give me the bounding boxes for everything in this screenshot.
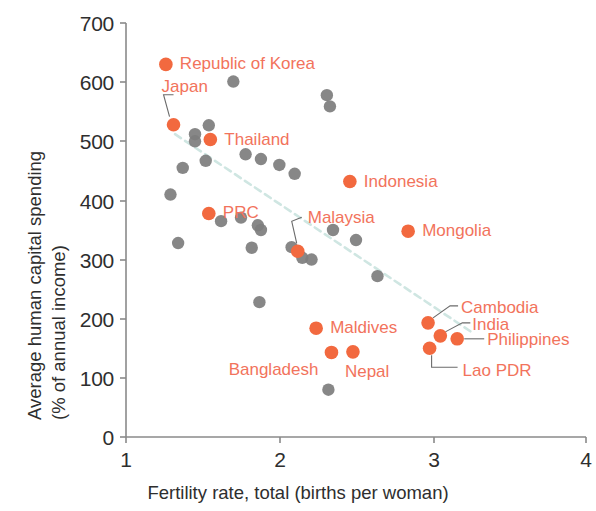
data-point-other	[305, 253, 317, 265]
data-point-other	[322, 383, 334, 395]
data-point-other	[227, 75, 239, 87]
x-tick-1: 1	[96, 449, 156, 470]
y-axis-title-line1: Average human capital spending	[24, 151, 46, 420]
point-label-malaysia: Malaysia	[308, 209, 375, 226]
point-label-thailand: Thailand	[224, 131, 289, 148]
data-point-other	[288, 168, 300, 180]
y-tick-500: 500	[52, 131, 114, 152]
point-label-lao-pdr: Lao PDR	[463, 362, 532, 379]
data-point-india	[434, 329, 448, 343]
leader-line-japan	[164, 95, 174, 117]
data-point-republic-of-korea	[159, 58, 173, 72]
x-tick-4: 4	[556, 449, 596, 470]
point-label-japan: Japan	[162, 78, 208, 95]
data-point-cambodia	[421, 316, 435, 330]
point-label-republic-of-korea: Republic of Korea	[180, 55, 315, 72]
point-label-indonesia: Indonesia	[364, 173, 438, 190]
data-point-other	[164, 188, 176, 200]
data-point-lao-pdr	[423, 341, 437, 355]
data-point-other	[273, 159, 285, 171]
point-label-philippines: Philippines	[487, 331, 569, 348]
data-point-indonesia	[343, 175, 357, 189]
data-point-other	[350, 234, 362, 246]
data-point-maldives	[309, 321, 323, 335]
data-point-nepal	[346, 345, 360, 359]
data-point-japan	[167, 118, 181, 132]
data-point-other	[253, 296, 265, 308]
data-point-philippines	[450, 332, 464, 346]
y-axis-title-line2: (% of annual income)	[48, 245, 70, 420]
leader-line-lao-pdr	[432, 355, 458, 367]
data-point-other	[172, 237, 184, 249]
data-point-bangladesh	[325, 346, 339, 360]
scatter-chart-figure: 7006005004003002001000 1234 Average huma…	[0, 0, 596, 511]
x-axis-title: Fertility rate, total (births per woman)	[0, 482, 596, 504]
data-point-other	[324, 100, 336, 112]
data-point-prc	[202, 207, 216, 221]
leader-line-malaysia	[292, 217, 302, 243]
y-tick-600: 600	[52, 72, 114, 93]
data-point-other	[203, 119, 215, 131]
point-label-maldives: Maldives	[330, 319, 397, 336]
data-point-other	[200, 155, 212, 167]
x-tick-3: 3	[404, 449, 464, 470]
point-label-bangladesh: Bangladesh	[229, 361, 319, 378]
y-tick-0: 0	[52, 427, 114, 448]
data-point-other	[239, 148, 251, 160]
data-point-other	[189, 135, 201, 147]
data-point-other	[177, 162, 189, 174]
x-tick-2: 2	[250, 449, 310, 470]
data-point-other	[255, 153, 267, 165]
point-label-prc: PRC	[223, 204, 259, 221]
y-tick-700: 700	[52, 13, 114, 34]
data-point-other	[321, 89, 333, 101]
data-point-malaysia	[291, 244, 305, 258]
data-point-mongolia	[401, 224, 415, 238]
data-point-other	[255, 224, 267, 236]
y-tick-400: 400	[52, 191, 114, 212]
data-point-other	[246, 242, 258, 254]
point-label-cambodia: Cambodia	[461, 299, 539, 316]
point-label-mongolia: Mongolia	[422, 222, 491, 239]
data-point-other	[371, 270, 383, 282]
point-label-nepal: Nepal	[345, 363, 389, 380]
data-point-thailand	[204, 133, 218, 147]
